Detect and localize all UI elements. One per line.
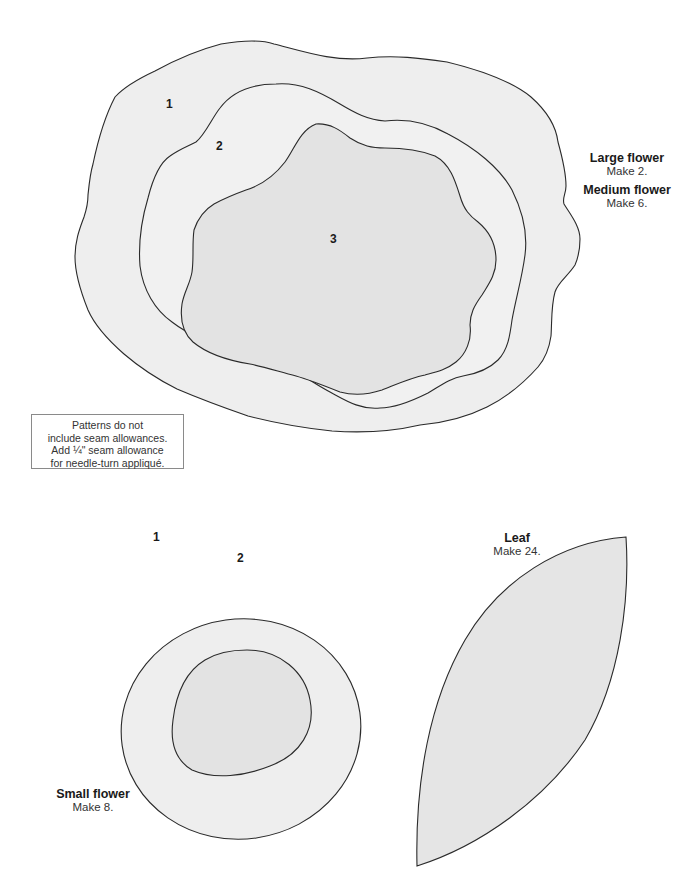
note-line: Add ¼" seam allowance — [32, 444, 183, 457]
medium-flower-label: Medium flower Make 6. — [574, 184, 680, 210]
large-flower-label: Large flower Make 2. — [574, 152, 680, 178]
leaf-outline — [417, 537, 627, 866]
note-line: for needle-turn appliqué. — [32, 457, 183, 470]
small-flower-piece-1-number: 1 — [153, 530, 160, 544]
seam-allowance-note: Patterns do not include seam allowances.… — [31, 414, 184, 469]
small-flower-piece-2-number: 2 — [237, 551, 244, 565]
large-flower-piece-3-number: 3 — [330, 232, 337, 246]
leaf-title: Leaf — [472, 532, 562, 545]
leaf-instruction: Make 24. — [472, 545, 562, 558]
note-line: Patterns do not — [32, 419, 183, 432]
small-flower-label: Small flower Make 8. — [38, 788, 148, 814]
medium-flower-title: Medium flower — [574, 184, 680, 197]
small-flower-title: Small flower — [38, 788, 148, 801]
large-flower-title: Large flower — [574, 152, 680, 165]
large-flower-piece-1-number: 1 — [166, 97, 173, 111]
large-flower-piece-2-number: 2 — [216, 139, 223, 153]
small-flower-instruction: Make 8. — [38, 801, 148, 814]
leaf-label: Leaf Make 24. — [472, 532, 562, 558]
large-flower-instruction: Make 2. — [574, 165, 680, 178]
note-line: include seam allowances. — [32, 432, 183, 445]
medium-flower-instruction: Make 6. — [574, 197, 680, 210]
